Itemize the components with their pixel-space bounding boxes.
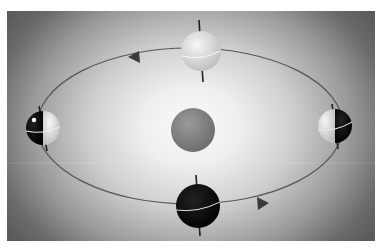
earth-bottom (176, 175, 220, 236)
earth-left (26, 106, 60, 151)
sun (171, 108, 215, 152)
earth-right (318, 104, 352, 149)
orbit-arrow-bottom-icon (257, 197, 269, 210)
orbit-arrow-top-icon (128, 51, 140, 63)
earth-top (181, 20, 221, 82)
diagram-canvas (7, 11, 375, 241)
orbit-diagram (7, 11, 375, 241)
